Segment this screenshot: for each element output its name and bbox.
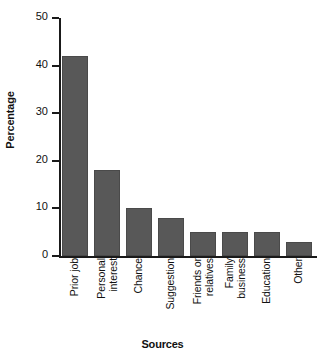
- bar[interactable]: [254, 232, 280, 256]
- x-tick-label: Suggestion: [155, 258, 187, 336]
- x-axis-title: Sources: [0, 338, 325, 350]
- x-tick-label: Other: [283, 258, 315, 336]
- bar[interactable]: [126, 208, 152, 256]
- x-tick-label: Prior job: [59, 258, 91, 336]
- y-tick-label: 20: [8, 153, 48, 166]
- x-tick-label-line: Suggestion: [164, 258, 176, 310]
- x-tick-label-line: Other: [292, 258, 304, 284]
- bar[interactable]: [190, 232, 216, 256]
- bar-chart-figure: Percentage 01020304050 Prior jobPersonal…: [0, 0, 325, 357]
- y-axis-title: Percentage: [4, 80, 24, 160]
- y-tick-label: 30: [8, 105, 48, 118]
- bar[interactable]: [286, 242, 312, 256]
- x-tick-label-line: Family: [223, 258, 235, 288]
- x-tick-label-line: business: [235, 258, 247, 299]
- x-tick-label: Chance: [123, 258, 155, 336]
- bar[interactable]: [62, 56, 88, 256]
- x-tick-label: Familybusiness: [219, 258, 251, 336]
- x-tick-label-line: Prior job: [68, 258, 80, 296]
- x-tick-label-line: relatives: [203, 258, 215, 304]
- x-tick-label-line: Personal: [95, 258, 107, 299]
- x-tick-label: Personalinterest: [91, 258, 123, 336]
- y-tick: 10: [52, 207, 59, 209]
- x-tick-label: Education: [251, 258, 283, 336]
- y-tick: 20: [52, 160, 59, 162]
- x-tick-label: Friends orrelatives: [187, 258, 219, 336]
- x-tick-label-line: Education: [260, 258, 272, 304]
- x-tick-labels: Prior jobPersonalinterestChanceSuggestio…: [59, 258, 317, 336]
- y-tick-label: 0: [8, 248, 48, 261]
- y-tick: 0: [52, 255, 59, 257]
- bar[interactable]: [158, 218, 184, 256]
- bar[interactable]: [94, 170, 120, 256]
- y-tick-label: 50: [8, 10, 48, 23]
- x-tick-label-line: Friends or: [191, 258, 203, 304]
- bar[interactable]: [222, 232, 248, 256]
- y-tick-label: 40: [8, 58, 48, 71]
- x-tick-label-line: interest: [107, 258, 119, 299]
- y-tick: 40: [52, 65, 59, 67]
- plot-area: 01020304050: [59, 18, 315, 256]
- y-tick-label: 10: [8, 200, 48, 213]
- x-tick-label-line: Chance: [132, 258, 144, 294]
- y-tick: 30: [52, 112, 59, 114]
- y-tick: 50: [52, 17, 59, 19]
